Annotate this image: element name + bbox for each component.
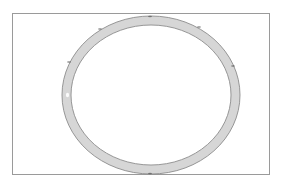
ring-diagram-canvas <box>0 0 285 185</box>
ring-band <box>62 16 240 174</box>
edge-mark <box>231 65 235 67</box>
ring-highlight <box>66 93 69 97</box>
ring-diagram <box>0 0 285 185</box>
ring-inner-edge <box>71 25 231 165</box>
edge-mark <box>148 173 152 175</box>
edge-mark <box>197 26 201 28</box>
edge-mark <box>67 61 71 63</box>
edge-mark <box>98 28 102 30</box>
edge-mark <box>148 16 152 18</box>
